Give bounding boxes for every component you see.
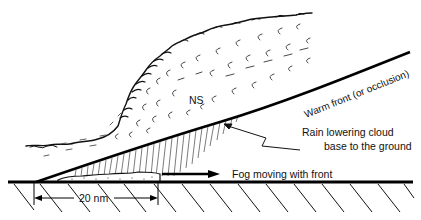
rain-leader-arrow (224, 124, 300, 150)
front-label: Warm front (or occlusion) (303, 68, 411, 120)
distance-label: 20 nm (79, 192, 108, 204)
fog-direction-arrow (162, 170, 220, 178)
cloud-type-label: NS (189, 94, 204, 106)
rain-label-line1: Rain lowering cloud (302, 126, 394, 138)
rain-label-line2: base to the ground (324, 140, 412, 152)
nimbostratus-cloud (26, 13, 312, 148)
ground-surface (8, 182, 414, 212)
fog-label: Fog moving with front (232, 168, 332, 180)
frontal-surface (36, 52, 410, 182)
warm-front-diagram: NS Warm front (or occlusion) Rain loweri… (0, 0, 421, 220)
